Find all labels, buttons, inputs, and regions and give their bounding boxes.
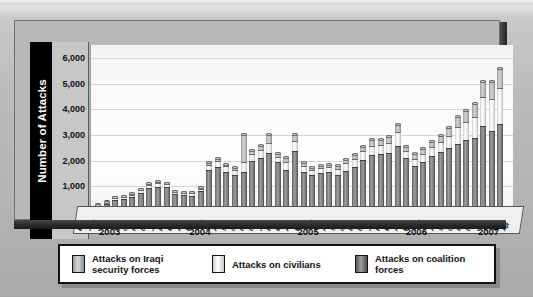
bar-segment-civilians [480, 97, 486, 126]
bar-column [472, 102, 478, 212]
bar-column [249, 149, 255, 212]
bar-segment-civilians [420, 154, 426, 162]
bar-top-ellipse [472, 102, 478, 105]
chart-panel-base-face [14, 220, 506, 229]
bar-column [283, 156, 289, 212]
bar-top-ellipse [215, 157, 221, 160]
bar-column [360, 145, 366, 212]
bar-column [266, 133, 272, 212]
bar-segment-civilians [463, 122, 469, 140]
bar-column [455, 116, 461, 213]
bar-segment-civilians [412, 159, 418, 167]
bar-top-ellipse [489, 80, 495, 83]
legend-label-coalition-line1: Attacks on coalition [375, 253, 465, 264]
legend-item-iraqi-security-forces: Attacks on Iraqi security forces [72, 253, 163, 275]
bar-segment-coalition [386, 153, 392, 212]
bar-column [438, 134, 444, 212]
bar-segment-coalition [420, 162, 426, 212]
legend-label-civilians-line1: Attacks on civilians [232, 259, 321, 270]
bar-segment-civilians [292, 141, 298, 151]
bar-top-ellipse [206, 161, 212, 164]
legend-swatch-coalition-icon [355, 255, 368, 273]
chart-page: 6,0005,0004,0003,0002,0001,000 Number of… [0, 0, 533, 297]
y-axis-tick-label: 4,000 [62, 104, 85, 114]
bar-segment-civilians [352, 159, 358, 167]
bar-segment-coalition [258, 158, 264, 212]
chart-legend: Attacks on Iraqi security forces Attacks… [58, 244, 496, 284]
chart-panel: 6,0005,0004,0003,0002,0001,000 Number of… [14, 20, 500, 220]
bar-segment-coalition [369, 155, 375, 212]
bar-segment-coalition [275, 162, 281, 212]
legend-label-coalition: Attacks on coalition forces [375, 253, 465, 275]
bar-segment-coalition [292, 151, 298, 212]
y-axis-tick-label: 5,000 [62, 79, 85, 89]
bar-top-ellipse [189, 191, 195, 194]
bar-column [386, 135, 392, 212]
bar-column [352, 153, 358, 212]
bar-top-ellipse [181, 191, 187, 194]
legend-label-iraqi: Attacks on Iraqi security forces [92, 253, 163, 275]
legend-swatch-iraqi-icon [72, 255, 85, 273]
bar-column [369, 138, 375, 212]
bar-top-ellipse [326, 163, 332, 166]
legend-label-civilians: Attacks on civilians [232, 259, 321, 270]
bar-segment-coalition [429, 156, 435, 212]
bar-segment-civilians [241, 162, 247, 172]
y-axis-tick-label: 6,000 [62, 53, 85, 63]
y-axis-title: Number of Attacks [36, 42, 48, 231]
bar-segment-civilians [446, 136, 452, 149]
bar-column [480, 80, 486, 212]
bar-column [446, 126, 452, 212]
bar-column [215, 157, 221, 212]
bar-column [463, 109, 469, 212]
bar-segment-civilians [472, 117, 478, 139]
bar-segment-iraqi [497, 67, 503, 88]
bar-segment-coalition [489, 131, 495, 212]
y-axis-title-band: Number of Attacks [30, 42, 52, 239]
plot-area [90, 45, 513, 212]
bar-column [241, 133, 247, 212]
bar-segment-civilians [378, 145, 384, 154]
bar-segment-civilians [266, 143, 272, 152]
bar-top-ellipse [438, 134, 444, 137]
bar-segment-civilians [283, 162, 289, 170]
bar-segment-civilians [455, 127, 461, 143]
bar-segment-civilians [386, 143, 392, 154]
bar-column [326, 163, 332, 212]
bar-top-ellipse [164, 182, 170, 185]
bar-top-ellipse [335, 164, 341, 167]
bar-column [403, 145, 409, 212]
bar-column [429, 140, 435, 212]
bar-column [318, 164, 324, 212]
bar-column [378, 138, 384, 212]
bar-segment-civilians [438, 142, 444, 152]
bar-segment-coalition [455, 144, 461, 212]
bar-segment-civilians [249, 154, 255, 161]
bar-segment-civilians [343, 163, 349, 171]
bar-segment-coalition [395, 146, 401, 213]
y-axis-tick-label: 2,000 [62, 156, 85, 166]
bar-top-ellipse [378, 138, 384, 141]
bar-segment-civilians [369, 146, 375, 156]
bar-segment-coalition [249, 161, 255, 212]
page-top-strip [0, 0, 533, 5]
bar-top-ellipse [104, 201, 110, 204]
bar-segment-civilians [429, 147, 435, 156]
bar-top-ellipse [275, 152, 281, 155]
bar-column [497, 67, 503, 212]
bar-top-ellipse [138, 188, 144, 191]
legend-swatch-civilians-icon [212, 255, 225, 273]
legend-label-iraqi-line1: Attacks on Iraqi [92, 253, 163, 264]
bar-segment-coalition [480, 126, 486, 212]
bar-segment-civilians [403, 151, 409, 158]
legend-item-coalition-forces: Attacks on coalition forces [355, 253, 465, 275]
bar-column [301, 162, 307, 213]
bar-column [343, 158, 349, 212]
bar-top-ellipse [223, 163, 229, 166]
bar-column [395, 123, 401, 212]
bar-segment-civilians [360, 151, 366, 160]
bar-column [258, 144, 264, 212]
bar-top-ellipse [352, 153, 358, 156]
bar-segment-coalition [446, 148, 452, 212]
bar-column [292, 133, 298, 212]
